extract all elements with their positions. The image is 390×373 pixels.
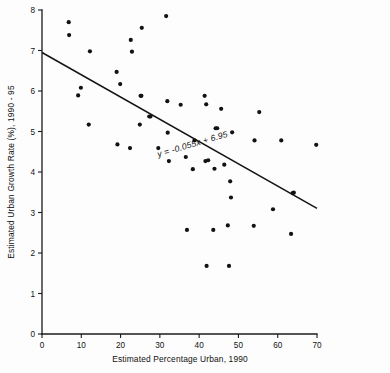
data-point (129, 38, 133, 42)
y-tick-label: 4 (30, 168, 35, 177)
data-point (257, 110, 261, 114)
data-point (67, 33, 71, 37)
x-tick-label: 60 (273, 341, 283, 350)
data-point (314, 143, 318, 147)
data-point (204, 102, 208, 106)
data-point (87, 123, 91, 127)
data-point (227, 264, 231, 268)
data-point (179, 103, 183, 107)
data-point (222, 163, 226, 167)
y-tick-label: 2 (30, 249, 35, 258)
data-point (167, 159, 171, 163)
y-tick-label: 5 (30, 128, 35, 137)
data-point (271, 207, 275, 211)
data-point (289, 232, 293, 236)
data-point (226, 223, 230, 227)
y-tick-label: 3 (30, 209, 35, 218)
x-tick-label: 30 (155, 341, 165, 350)
data-point (211, 228, 215, 232)
data-point (252, 224, 256, 228)
y-tick-label: 8 (30, 6, 35, 15)
data-point (164, 14, 168, 18)
data-point (229, 195, 233, 199)
data-point (140, 26, 144, 30)
data-point (219, 107, 223, 111)
y-axis-title: Estimated Urban Growth Rate (%), 1990 - … (6, 85, 16, 259)
x-tick-label: 10 (77, 341, 87, 350)
y-tick-label: 6 (30, 87, 35, 96)
scatter-plot-figure: 012345678 010203040506070 y = -0.055x + … (0, 0, 390, 373)
data-point (139, 94, 143, 98)
data-point (166, 131, 170, 135)
x-axis-title: Estimated Percentage Urban, 1990 (112, 354, 248, 364)
y-tick-label: 7 (30, 47, 35, 56)
data-point (212, 167, 216, 171)
data-point (206, 158, 210, 162)
x-tick-label: 50 (234, 341, 244, 350)
y-tick-label: 1 (30, 290, 35, 299)
data-point (88, 49, 92, 53)
data-point (185, 228, 189, 232)
data-point (130, 50, 134, 54)
x-tick-label: 40 (195, 341, 205, 350)
data-point (279, 138, 283, 142)
data-point (252, 138, 256, 142)
data-point (205, 264, 209, 268)
data-point (128, 146, 132, 150)
data-point (67, 20, 71, 24)
data-point (118, 82, 122, 86)
data-point (215, 126, 219, 130)
data-point (138, 123, 142, 127)
x-tick-label: 20 (116, 341, 126, 350)
data-point (165, 99, 169, 103)
data-point (76, 93, 80, 97)
data-point (228, 179, 232, 183)
data-point (203, 94, 207, 98)
data-point (79, 86, 83, 90)
plot-canvas: 012345678 010203040506070 y = -0.055x + … (0, 0, 390, 373)
data-point (184, 155, 188, 159)
data-point (115, 142, 119, 146)
x-tick-label: 70 (312, 341, 322, 350)
data-point (230, 130, 234, 134)
y-tick-label: 0 (30, 330, 35, 339)
data-point (191, 167, 195, 171)
plot-background (0, 0, 390, 373)
x-tick-label: 0 (40, 341, 45, 350)
data-point (115, 70, 119, 74)
